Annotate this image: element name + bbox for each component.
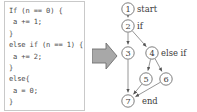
code-line: else{ — [9, 73, 84, 84]
code-line: } — [9, 28, 84, 39]
code-line: a = 0; — [9, 85, 84, 96]
graph-node-annotation: end — [142, 96, 158, 106]
graph-node-number: 3 — [125, 48, 130, 58]
code-line: If (n == 0) { — [9, 5, 84, 16]
graph-node-number: 1 — [125, 4, 130, 14]
graph-node-annotation: if — [137, 21, 144, 31]
graph-edge — [155, 59, 162, 72]
graph-node-number: 2 — [125, 21, 130, 31]
code-line-list: If (n == 0) { a += 1;}else if (n == 1) {… — [5, 2, 84, 108]
code-line: } — [9, 62, 84, 73]
flowchart-figure: If (n == 0) { a += 1;}else if (n == 1) {… — [0, 0, 197, 112]
graph-edge — [133, 84, 141, 94]
code-line: a += 1; — [9, 16, 84, 27]
graph-node-number: 5 — [143, 74, 148, 84]
code-line: a += 2; — [9, 51, 84, 62]
graph-annotation-layer: startifelse ifend — [137, 4, 187, 106]
graph-edge — [132, 31, 146, 47]
graph-node-number: 6 — [163, 74, 168, 84]
code-line: else if (n == 1) { — [9, 39, 84, 50]
control-flow-graph: 1234567 startifelse ifend — [115, 0, 197, 112]
graph-node-number: 7 — [125, 96, 130, 106]
graph-edge — [148, 59, 151, 70]
graph-node-annotation: start — [137, 4, 158, 14]
graph-node-annotation: else if — [161, 48, 187, 58]
source-code-panel: If (n == 0) { a += 1;}else if (n == 1) {… — [4, 1, 85, 111]
code-line: } — [9, 96, 84, 107]
graph-node-number: 4 — [149, 48, 154, 58]
graph-canvas: 1234567 startifelse ifend — [115, 0, 197, 112]
arrow-polygon — [92, 43, 117, 69]
